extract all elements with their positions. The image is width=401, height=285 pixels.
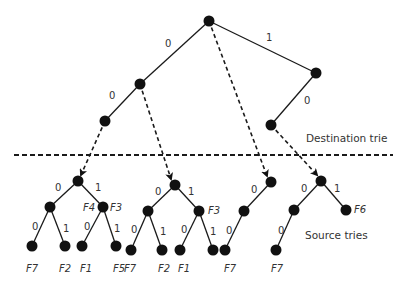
source-filter-label: F1 [80, 263, 92, 274]
source-edge-label: 1 [210, 226, 216, 237]
pointer-arrow [140, 84, 171, 179]
source-node [194, 206, 205, 217]
source-node [239, 206, 250, 217]
destination-node [204, 16, 215, 27]
source-trie-3: 00F7 [220, 177, 277, 275]
source-node [316, 176, 327, 187]
trie-diagram: 0010 010101F4F3F7F2F1F5010101F3F7F2F100F… [0, 0, 401, 285]
source-edge [244, 182, 271, 211]
source-node [170, 180, 181, 191]
source-node [27, 241, 38, 252]
source-edge-label: 0 [131, 224, 137, 235]
source-tries: 010101F4F3F7F2F1F5010101F3F7F2F100F7010F… [26, 176, 366, 275]
source-filter-label: F4 [83, 202, 95, 213]
source-node [111, 241, 122, 252]
source-filter-label: F2 [158, 263, 170, 274]
source-edge-label: 0 [32, 221, 38, 232]
source-edge-label: 0 [301, 183, 307, 194]
source-node [208, 245, 219, 256]
source-node [126, 245, 137, 256]
destination-edge [140, 21, 209, 84]
destination-node [266, 120, 277, 131]
source-filter-label: F7 [124, 263, 137, 274]
destination-node [311, 68, 322, 79]
source-edge-label: 0 [55, 182, 61, 193]
source-edge-label: 0 [251, 184, 257, 195]
source-filter-label: F1 [178, 263, 190, 274]
source-filter-label: F7 [224, 263, 237, 274]
source-node [266, 177, 277, 188]
source-tries-label: Source tries [305, 229, 368, 241]
source-filter-label: F7 [271, 263, 284, 274]
destination-trie: 0010 [100, 16, 322, 131]
source-edge-label: 1 [188, 186, 194, 197]
source-node [60, 241, 71, 252]
source-edge-label: 1 [114, 223, 120, 234]
source-node [77, 241, 88, 252]
source-trie-1: 010101F4F3F7F2F1F5 [26, 176, 125, 275]
source-node [157, 245, 168, 256]
pointer-arrow [81, 121, 105, 175]
destination-node [135, 79, 146, 90]
destination-edge [209, 21, 316, 73]
source-edge [148, 185, 175, 211]
source-node [341, 205, 352, 216]
source-node [45, 202, 56, 213]
source-edge-label: 0 [278, 225, 284, 236]
source-edge [294, 181, 321, 210]
source-node [143, 206, 154, 217]
source-edge-label: 0 [226, 225, 232, 236]
source-node [98, 202, 109, 213]
source-filter-label: F6 [354, 204, 366, 215]
source-edge-label: 0 [84, 221, 90, 232]
source-edge-label: 1 [63, 223, 69, 234]
source-edge-label: 1 [334, 183, 340, 194]
source-filter-label: F2 [59, 263, 71, 274]
destination-edge-label: 0 [109, 90, 115, 101]
source-trie-2: 010101F3F7F2F1 [124, 180, 220, 275]
source-node [73, 176, 84, 187]
source-node [220, 245, 231, 256]
source-filter-label: F7 [26, 263, 39, 274]
source-edge-label: 0 [181, 224, 187, 235]
source-edge-label: 1 [95, 182, 101, 193]
source-edge-label: 1 [160, 226, 166, 237]
source-node [289, 205, 300, 216]
destination-edge-label: 1 [266, 32, 272, 43]
source-trie-4: 010F6F7 [271, 176, 367, 275]
destination-trie-label: Destination trie [306, 132, 387, 144]
source-filter-label: F3 [110, 202, 122, 213]
destination-node [100, 116, 111, 127]
source-edge-label: 0 [155, 186, 161, 197]
source-filter-label: F3 [208, 205, 220, 216]
source-node [175, 245, 186, 256]
destination-edge-label: 0 [304, 95, 310, 106]
destination-edge-label: 0 [165, 38, 171, 49]
source-node [271, 245, 282, 256]
